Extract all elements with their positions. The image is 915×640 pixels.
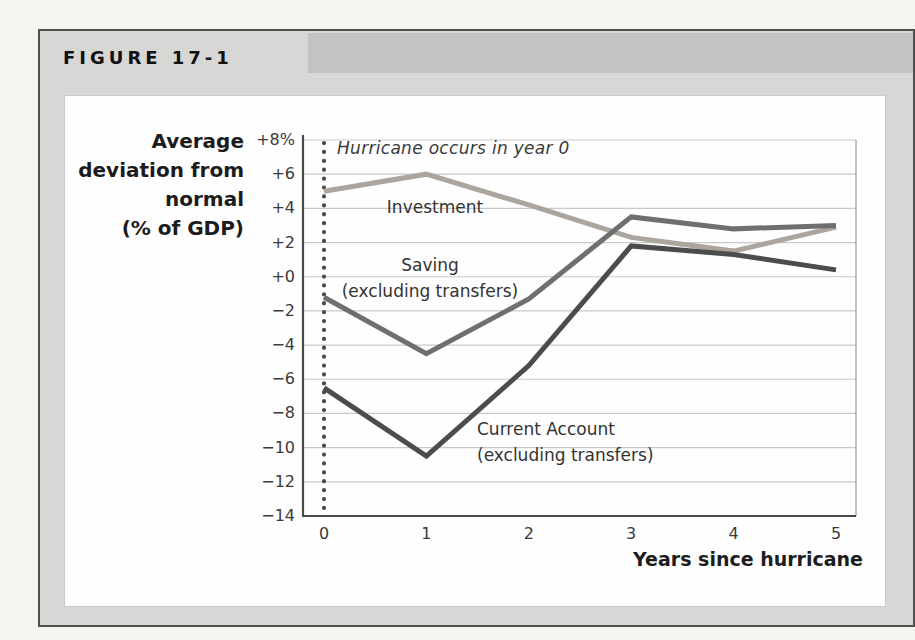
x-tick-label: 3 xyxy=(609,524,653,544)
event-annotation: Hurricane occurs in year 0 xyxy=(337,138,570,158)
series-label-investment: Investment xyxy=(365,194,505,220)
x-tick-label: 2 xyxy=(507,524,551,544)
series-label-saving: Saving (excluding transfers) xyxy=(330,252,530,304)
y-tick-label: +8% xyxy=(235,130,295,150)
x-tick-label: 1 xyxy=(404,524,448,544)
figure-frame: FIGURE 17-1 Average deviation from norma… xyxy=(38,29,915,627)
y-axis-title-line: normal xyxy=(65,185,244,214)
y-tick-label: +2 xyxy=(235,233,295,253)
x-tick-label: 4 xyxy=(712,524,756,544)
y-tick-label: −8 xyxy=(235,403,295,423)
y-tick-label: −4 xyxy=(235,335,295,355)
x-tick-label: 5 xyxy=(814,524,858,544)
x-axis-title: Years since hurricane xyxy=(633,548,863,570)
y-axis-title-line: Average xyxy=(65,127,244,156)
series-label-current-account: Current Account (excluding transfers) xyxy=(477,416,654,468)
chart-panel: Average deviation from normal (% of GDP)… xyxy=(64,95,886,607)
figure-header-band xyxy=(308,33,913,73)
y-axis-title: Average deviation from normal (% of GDP) xyxy=(65,127,244,243)
y-tick-label: −10 xyxy=(235,438,295,458)
y-axis-title-line: (% of GDP) xyxy=(65,214,244,243)
y-tick-label: −14 xyxy=(235,506,295,526)
x-tick-label: 0 xyxy=(302,524,346,544)
y-axis-title-line: deviation from xyxy=(65,156,244,185)
y-tick-label: +6 xyxy=(235,164,295,184)
y-tick-label: −2 xyxy=(235,301,295,321)
figure-label: FIGURE 17-1 xyxy=(63,47,233,68)
y-tick-label: −12 xyxy=(235,472,295,492)
y-tick-label: −6 xyxy=(235,369,295,389)
y-tick-label: +4 xyxy=(235,198,295,218)
y-tick-label: +0 xyxy=(235,267,295,287)
